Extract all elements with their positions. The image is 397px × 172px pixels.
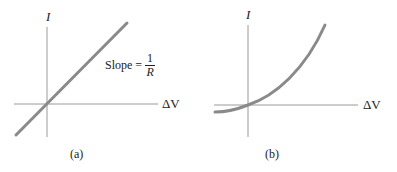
diagram-canvas: [0, 0, 397, 172]
panel-a-linear-curve: [16, 23, 127, 135]
slope-denominator: R: [145, 66, 155, 79]
slope-prefix: Slope =: [105, 58, 145, 72]
panel-b-graph: [214, 25, 358, 137]
panel-a-x-axis-label: ΔV: [162, 97, 180, 110]
panel-b-x-axis-label: ΔV: [363, 98, 381, 111]
panel-a-y-axis-label: I: [46, 10, 50, 23]
slope-numerator: 1: [145, 52, 155, 66]
panel-b-caption: (b): [265, 148, 279, 160]
panel-a-x-axis-label-text: ΔV: [162, 96, 180, 111]
panel-b-y-axis-label: I: [246, 8, 250, 21]
slope-fraction: 1R: [145, 52, 155, 78]
panel-a-slope-annotation: Slope = 1R: [105, 52, 155, 78]
panel-a-graph: [14, 23, 158, 137]
panel-a-caption: (a): [70, 148, 83, 160]
panel-b-nonlinear-curve: [215, 25, 325, 112]
